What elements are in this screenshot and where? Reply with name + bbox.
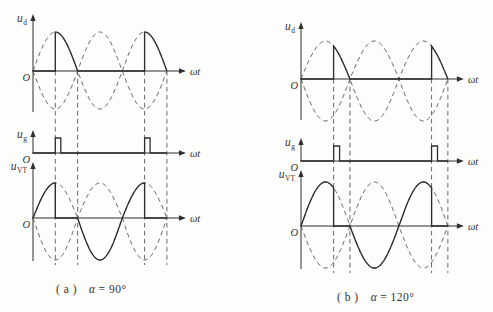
b-uvt-y-axis-arrow bbox=[298, 170, 303, 177]
panel-b-caption: ( b )α= 120° bbox=[337, 291, 414, 303]
b-uvt-origin-label: O bbox=[290, 227, 298, 238]
a-ud-y-label: ud bbox=[17, 12, 27, 27]
b-ud-dashed-sine-inverted bbox=[301, 41, 448, 121]
b-uvt-solid-waveform bbox=[301, 182, 448, 268]
panel-a-caption: ( a )α= 90° bbox=[56, 283, 127, 295]
a-uvt-dashed-sine-inverted bbox=[33, 183, 167, 260]
panel-a: udOωtugOωtuVTOωt ( a )α= 90° bbox=[0, 0, 246, 304]
b-ud-y-label: ud bbox=[285, 20, 295, 35]
a-uvt-origin-label: O bbox=[22, 219, 30, 230]
caption-b-alpha-symbol: α bbox=[371, 291, 378, 303]
caption-b-index: ( b ) bbox=[337, 291, 359, 303]
caption-a-value: = 90° bbox=[99, 283, 127, 295]
b-uvt-dashed-sine-inverted bbox=[301, 182, 448, 268]
a-uvt-y-axis-arrow bbox=[30, 162, 35, 169]
b-uvt-dashed-sine bbox=[301, 182, 448, 268]
b-uvt-x-axis-arrow bbox=[457, 223, 464, 228]
a-ug-origin-label: O bbox=[22, 154, 30, 165]
b-ud-y-axis-arrow bbox=[298, 22, 303, 29]
b-ug-origin-label: O bbox=[290, 162, 298, 173]
a-ud-x-label: ωt bbox=[190, 66, 201, 77]
a-ug-x-axis-arrow bbox=[179, 150, 186, 155]
b-ug-pulse-waveform bbox=[301, 146, 448, 161]
b-ud-dashed-sine bbox=[301, 41, 448, 121]
panel-a-plots: udOωtugOωtuVTOωt bbox=[0, 0, 246, 278]
a-ud-solid-waveform bbox=[33, 32, 167, 71]
b-ud-x-label: ωt bbox=[468, 74, 479, 85]
caption-b-value: = 120° bbox=[380, 291, 414, 303]
waveform-figure: udOωtugOωtuVTOωt ( a )α= 90° udOωtugOωtu… bbox=[0, 0, 493, 312]
a-uvt-x-label: ωt bbox=[190, 213, 201, 224]
b-ug-x-label: ωt bbox=[468, 156, 479, 167]
caption-a-index: ( a ) bbox=[56, 283, 77, 295]
b-uvt-x-label: ωt bbox=[468, 221, 479, 232]
panel-b-plots: udOωtugOωtuVTOωt bbox=[247, 8, 493, 286]
b-ud-x-axis-arrow bbox=[457, 76, 464, 81]
panel-b: udOωtugOωtuVTOωt ( b )α= 120° bbox=[247, 8, 493, 312]
a-ud-origin-label: O bbox=[22, 72, 30, 83]
b-ud-origin-label: O bbox=[290, 80, 298, 91]
b-ud-solid-waveform bbox=[301, 46, 448, 79]
a-uvt-dashed-sine bbox=[33, 183, 167, 260]
a-ug-pulse-waveform bbox=[33, 138, 167, 153]
b-ug-y-axis-arrow bbox=[298, 138, 303, 145]
b-ug-y-label: ug bbox=[285, 136, 295, 151]
a-ug-y-label: ug bbox=[17, 128, 27, 143]
caption-a-alpha-symbol: α bbox=[89, 283, 96, 295]
a-ug-x-label: ωt bbox=[190, 148, 201, 159]
a-ud-y-axis-arrow bbox=[30, 14, 35, 21]
a-ud-x-axis-arrow bbox=[179, 68, 186, 73]
a-ug-y-axis-arrow bbox=[30, 130, 35, 137]
b-ug-x-axis-arrow bbox=[457, 158, 464, 163]
a-uvt-x-axis-arrow bbox=[179, 215, 186, 220]
a-uvt-solid-waveform bbox=[33, 183, 167, 260]
